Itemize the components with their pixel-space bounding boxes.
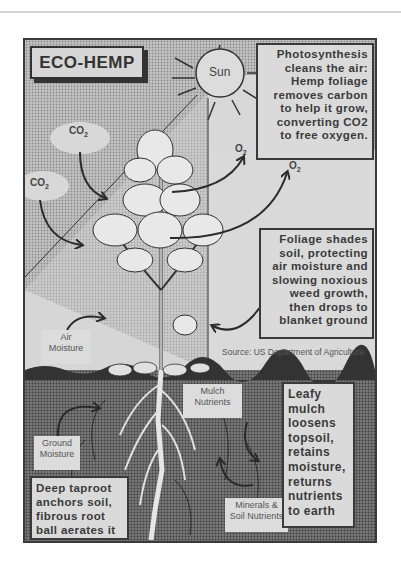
callout-line: Leafy	[288, 387, 349, 402]
foliage-callout: Foliage shades soil, protecting air mois…	[259, 228, 374, 339]
callout-line: to earth	[288, 504, 349, 519]
callout-line: Foliage shades	[263, 233, 368, 247]
label-line: Air	[44, 332, 88, 343]
callout-line: blanket ground	[263, 314, 368, 328]
taproot-callout: Deep taproot anchors soil, fibrous root …	[30, 476, 129, 540]
callout-line: to help it grow,	[260, 102, 368, 116]
callout-line: moisture,	[288, 460, 349, 475]
co2-label-left: CO2	[30, 177, 49, 190]
callout-line: then drops to	[263, 301, 368, 315]
callout-line: returns	[288, 475, 349, 490]
leafy-mulch-callout: Leafy mulch loosens topsoil, retains moi…	[282, 382, 355, 528]
label-line: Moisture	[44, 343, 88, 354]
photosynthesis-callout: Photosynthesis cleans the air: Hemp foli…	[256, 43, 374, 160]
label-line: Ground	[37, 438, 77, 449]
callout-line: anchors soil,	[36, 495, 123, 509]
poster-title: ECO-HEMP	[30, 46, 144, 79]
label-line: Minerals &	[228, 500, 285, 511]
label-line: Moisture	[37, 449, 77, 460]
callout-line: soil, protecting	[263, 247, 368, 261]
callout-line: removes carbon	[260, 89, 368, 103]
sun-label: Sun	[209, 65, 230, 79]
air-moisture-label: Air Moisture	[41, 330, 91, 364]
label-line: Nutrients	[186, 397, 239, 408]
callout-line: Hemp foliage	[260, 75, 368, 89]
callout-line: weed growth,	[263, 287, 368, 301]
o2-label-right: O2	[289, 160, 301, 173]
label-line: Mulch	[186, 386, 239, 397]
callout-line: loosens	[288, 416, 349, 431]
callout-line: converting CO2	[260, 116, 368, 130]
callout-line: cleans the air:	[260, 62, 368, 76]
callout-line: nutrients	[288, 489, 349, 504]
minerals-label: Minerals & Soil Nutrients	[225, 498, 288, 532]
callout-line: Photosynthesis	[260, 48, 368, 62]
ground-moisture-label: Ground Moisture	[34, 436, 80, 470]
eco-hemp-poster: ECO-HEMP Sun CO2 CO2 O2 O2 Photosynthesi…	[23, 38, 377, 543]
source-credit: Source: US Department of Agriculture	[222, 347, 364, 357]
callout-line: to free oxygen.	[260, 129, 368, 143]
callout-line: fibrous root	[36, 509, 123, 523]
callout-line: retains	[288, 445, 349, 460]
callout-line: mulch	[288, 402, 349, 417]
label-line: Soil Nutrients	[228, 511, 285, 522]
co2-label-top: CO2	[69, 125, 88, 138]
callout-line: air moisture and	[263, 260, 368, 274]
callout-line: topsoil,	[288, 431, 349, 446]
mulch-nutrients-label: Mulch Nutrients	[183, 384, 242, 418]
callout-line: ball aerates it	[36, 523, 123, 537]
o2-label-left: O2	[235, 143, 247, 156]
top-divider	[0, 11, 401, 13]
callout-line: slowing noxious	[263, 274, 368, 288]
callout-line: Deep taproot	[36, 481, 123, 495]
